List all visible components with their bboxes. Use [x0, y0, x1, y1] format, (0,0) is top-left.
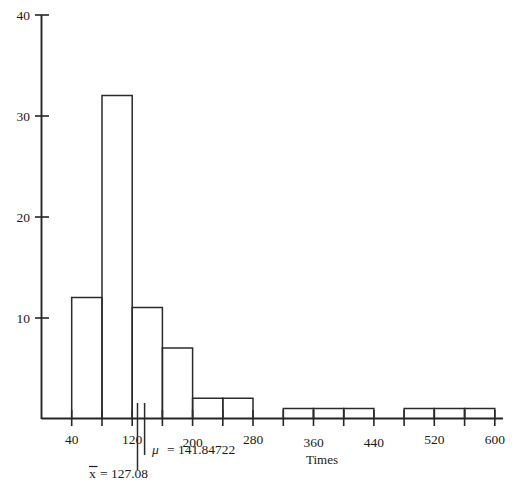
- bar-bin-160-200: [162, 348, 192, 419]
- y-tick-label-10: 10: [17, 311, 31, 326]
- bar-bin-520-560: [434, 408, 464, 418]
- bar-bin-240-280: [223, 398, 253, 418]
- bar-bin-200-240: [193, 398, 223, 418]
- histogram-chart: 40 30 20 10 40 120 200 280 360 440: [0, 0, 518, 491]
- x-axis-title: Times: [306, 452, 338, 467]
- population-mean-annotation: μ = 141.84722: [151, 442, 235, 457]
- x-tick-label-120: 120: [122, 432, 143, 447]
- bar-bin-480-520: [404, 408, 434, 418]
- y-tick-label-20: 20: [17, 210, 31, 225]
- bar-bin-360-400: [314, 408, 344, 418]
- sample-mean-annotation: x = 127.08: [89, 466, 148, 481]
- bar-bin-560-600: [465, 408, 495, 418]
- bar-bin-120-160: [132, 308, 162, 419]
- bar-bin-320-360: [283, 408, 313, 418]
- y-tick-label-40: 40: [17, 8, 31, 23]
- mu-symbol: μ: [151, 442, 159, 457]
- x-tick-label-440: 440: [364, 435, 385, 450]
- y-tick-label-30: 30: [17, 109, 31, 124]
- xbar-symbol: x: [89, 466, 96, 481]
- chart-canvas: 40 30 20 10 40 120 200 280 360 440: [0, 0, 518, 491]
- histogram-bars: [72, 96, 495, 419]
- x-tick-label-280: 280: [243, 432, 264, 447]
- bar-bin-400-440: [344, 408, 374, 418]
- x-tick-label-360: 360: [303, 435, 324, 450]
- mu-value: = 141.84722: [167, 442, 235, 457]
- x-tick-label-40: 40: [65, 432, 79, 447]
- xbar-value: = 127.08: [100, 466, 148, 481]
- x-tick-label-600: 600: [485, 432, 506, 447]
- bar-bin-40-80: [72, 297, 102, 418]
- x-tick-label-520: 520: [424, 432, 445, 447]
- bar-bin-80-120: [102, 96, 132, 419]
